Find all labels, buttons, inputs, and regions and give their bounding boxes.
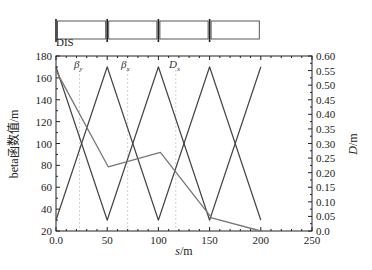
y2-tick-label: 0.30 bbox=[316, 138, 336, 150]
label-d-x: Dx bbox=[168, 58, 181, 73]
y2-tick-label: 0.50 bbox=[316, 79, 336, 91]
x-tick-label: 200 bbox=[253, 234, 270, 246]
x-tick-label: 150 bbox=[201, 234, 218, 246]
y2-tick-label: 0.40 bbox=[316, 108, 336, 120]
y-tick-label: 100 bbox=[36, 138, 53, 150]
x-axis-title: s/m bbox=[175, 244, 193, 258]
y2-tick-label: 0.60 bbox=[316, 50, 336, 62]
y-tick-label: 180 bbox=[36, 50, 53, 62]
marker-lines bbox=[80, 70, 176, 231]
y2-tick-label: 0.35 bbox=[316, 123, 336, 135]
y-tick-label: 120 bbox=[36, 116, 53, 128]
curves bbox=[56, 67, 261, 231]
curve-Dx bbox=[56, 71, 261, 231]
x-tick-label: 100 bbox=[150, 234, 167, 246]
y2-tick-label: 0.05 bbox=[316, 210, 336, 222]
y-tick-label: 60 bbox=[41, 181, 53, 193]
y-tick-label: 20 bbox=[41, 225, 53, 237]
y2-tick-label: 0.0 bbox=[316, 225, 330, 237]
y-tick-label: 160 bbox=[36, 72, 53, 84]
y2-tick-label: 0.45 bbox=[316, 94, 336, 106]
y2-axis-title: D/m bbox=[346, 133, 360, 156]
y2-tick-label: 0.20 bbox=[316, 167, 336, 179]
y2-tick-label: 0.10 bbox=[316, 196, 336, 208]
y2-tick-label: 0.15 bbox=[316, 181, 336, 193]
y2-tick-label: 0.55 bbox=[316, 65, 336, 77]
label-beta-x: βx bbox=[120, 58, 130, 73]
y-tick-label: 80 bbox=[41, 159, 53, 171]
x-tick-label: 50 bbox=[102, 234, 114, 246]
lattice-label: DIS bbox=[56, 36, 74, 48]
y-tick-label: 140 bbox=[36, 94, 53, 106]
curve-βx bbox=[56, 67, 261, 220]
lattice-diagram bbox=[56, 19, 259, 42]
y-axis-title: beta函数值/m bbox=[6, 109, 21, 178]
curve-βy bbox=[56, 67, 261, 220]
y2-tick-label: 0.25 bbox=[316, 152, 336, 164]
lattice-cell bbox=[211, 21, 259, 39]
label-beta-y: βy bbox=[73, 58, 83, 73]
lattice-cell bbox=[160, 21, 208, 39]
lattice-cell bbox=[109, 21, 157, 39]
y-tick-label: 40 bbox=[41, 203, 53, 215]
beta-function-chart: DIS 0.0501001502002502040608010012014016… bbox=[0, 0, 372, 270]
